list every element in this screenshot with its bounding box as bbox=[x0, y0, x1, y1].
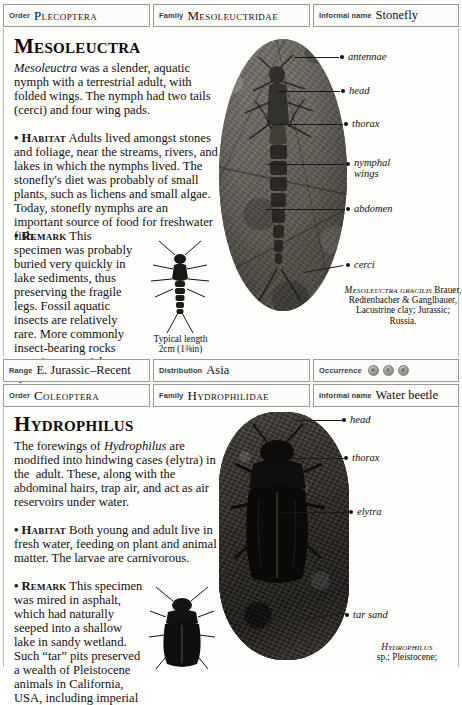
leader-dot-head-2 bbox=[342, 418, 346, 422]
order-cell: Order Plecoptera bbox=[3, 4, 150, 27]
distribution-cell: Distribution Asia bbox=[153, 359, 310, 382]
leader-elytra bbox=[281, 512, 349, 513]
page-title-mesoleuctra: Mesoleuctra bbox=[14, 36, 140, 57]
range-cell: Range E. Jurassic–Recent bbox=[3, 359, 150, 382]
occurrence-dot-icon bbox=[368, 365, 379, 376]
range-label: Range bbox=[9, 366, 32, 375]
occurrence-cell: Occurrence bbox=[313, 359, 459, 382]
beetle-imprint bbox=[219, 412, 349, 660]
occurrence-dot-icon bbox=[398, 365, 409, 376]
entry-2-paragraph-intro: The forewings of Hydrophilus are modifie… bbox=[14, 439, 219, 509]
family-label-2: Family bbox=[159, 391, 183, 400]
entry-2-paragraph-remark: • Remark This specimen was mired in asph… bbox=[14, 579, 144, 705]
entry-1-paragraph-habitat: • Habitat Adults lived amongst stones an… bbox=[14, 131, 219, 243]
leader-antennae bbox=[294, 57, 339, 58]
caption-genus-2: Hydrophilus bbox=[381, 642, 432, 652]
leader-dot-tar-sand bbox=[345, 613, 349, 617]
family-value-2: Hydrophilidae bbox=[187, 389, 269, 402]
informal-name-value-2: Water beetle bbox=[376, 389, 439, 402]
caption-species: gracilis bbox=[400, 285, 432, 295]
informal-name-cell: Informal name Stonefly bbox=[313, 4, 459, 27]
specimen-caption-stonefly: Mesoleuctra gracilis Brauer, Redtenbache… bbox=[344, 285, 462, 326]
order-cell-2: Order Coleoptera bbox=[3, 384, 150, 407]
rock-vignette bbox=[219, 39, 347, 311]
occurrence-label: Occurrence bbox=[319, 366, 362, 375]
callout-antennae: antennae bbox=[348, 51, 387, 62]
leader-dot-thorax-2 bbox=[344, 456, 348, 460]
order-label-2: Order bbox=[9, 391, 30, 400]
entry-1-header-strip: Order Plecoptera Family Mesoleuctridae I… bbox=[3, 4, 459, 27]
callout-head-2: head bbox=[350, 414, 370, 425]
distribution-label: Distribution bbox=[159, 366, 202, 375]
leader-dot-abdomen bbox=[346, 207, 350, 211]
family-value: Mesoleuctridae bbox=[187, 9, 278, 22]
leader-thorax-2 bbox=[289, 458, 344, 459]
leader-thorax bbox=[272, 124, 343, 125]
callout-tar-sand: tar sand bbox=[353, 609, 388, 620]
leader-head bbox=[276, 91, 340, 92]
caption-genus: Mesoleuctra bbox=[345, 285, 398, 295]
entry-2-header-strip: Order Coleoptera Family Hydrophilidae In… bbox=[3, 384, 459, 407]
fossil-slab-water-beetle bbox=[219, 412, 349, 660]
beetle-line-drawing bbox=[146, 585, 218, 675]
leader-dot-cerci bbox=[346, 263, 350, 267]
entry-2-paragraph-habitat: • Habitat Both young and adult live in f… bbox=[14, 523, 219, 565]
family-cell-2: Family Hydrophilidae bbox=[153, 384, 310, 407]
distribution-value: Asia bbox=[206, 364, 229, 377]
order-label: Order bbox=[9, 11, 30, 20]
specimen-caption-beetle: Hydrophilus sp.; Pleistocene; bbox=[352, 642, 462, 662]
entry-1-paragraph-intro: Mesoleuctra was a slender, aquatic nymph… bbox=[14, 61, 219, 117]
family-cell: Family Mesoleuctridae bbox=[153, 4, 310, 27]
entry-2-panel: Hydrophilus The forewings of Hydrophilus… bbox=[3, 408, 459, 667]
callout-abdomen: abdomen bbox=[354, 203, 393, 214]
informal-name-cell-2: Informal name Water beetle bbox=[313, 384, 459, 407]
fossil-slab-stonefly bbox=[219, 39, 347, 311]
leader-head-2 bbox=[294, 420, 342, 421]
page-title-hydrophilus: Hydrophilus bbox=[14, 414, 134, 435]
informal-name-label-2: Informal name bbox=[319, 391, 372, 400]
callout-thorax: thorax bbox=[352, 118, 379, 129]
range-value: E. Jurassic–Recent bbox=[36, 364, 130, 377]
leader-dot-thorax bbox=[344, 122, 348, 126]
callout-head: head bbox=[349, 85, 369, 96]
informal-name-value: Stonefly bbox=[376, 9, 418, 22]
nymph-line-drawing bbox=[147, 239, 213, 334]
family-label: Family bbox=[159, 11, 183, 20]
callout-nymphal-wings: nymphalwings bbox=[354, 157, 390, 179]
leader-dot-nymphal-wings bbox=[346, 162, 350, 166]
leader-nymphal-wings bbox=[267, 164, 345, 165]
informal-name-label: Informal name bbox=[319, 11, 372, 20]
leader-dot-elytra bbox=[349, 510, 353, 514]
callout-thorax-2: thorax bbox=[352, 452, 379, 463]
scale-caption: Typical length2cm (1⅜in) bbox=[133, 334, 228, 355]
leader-dot-antennae bbox=[340, 55, 344, 59]
leader-dot-head bbox=[341, 89, 345, 93]
order-value-2: Coleoptera bbox=[34, 389, 99, 402]
caption-rest-2: sp.; Pleistocene; bbox=[377, 652, 437, 662]
callout-elytra: elytra bbox=[357, 506, 382, 517]
leader-abdomen bbox=[266, 209, 345, 210]
entry-1-panel: Mesoleuctra Mesoleuctra was a slender, a… bbox=[3, 28, 459, 356]
occurrence-rating bbox=[368, 365, 409, 376]
callout-cerci: cerci bbox=[354, 259, 375, 270]
order-value: Plecoptera bbox=[34, 9, 97, 22]
entry-1-footer-strip: Range E. Jurassic–Recent Distribution As… bbox=[3, 359, 459, 382]
occurrence-dot-icon bbox=[383, 365, 394, 376]
